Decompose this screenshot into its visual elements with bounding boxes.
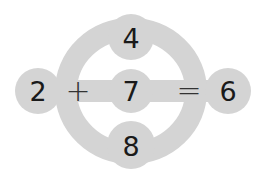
equals-sign: = — [176, 73, 201, 108]
plus-sign: + — [65, 73, 90, 108]
right-number: 6 — [219, 76, 236, 107]
bottom-number: 8 — [122, 131, 139, 162]
number-puzzle-diagram: 2 + 7 = 6 4 8 — [0, 0, 257, 180]
center-number: 7 — [122, 76, 139, 107]
top-number: 4 — [122, 23, 139, 54]
left-number: 2 — [29, 76, 46, 107]
